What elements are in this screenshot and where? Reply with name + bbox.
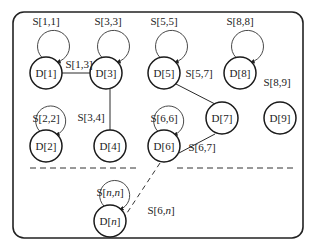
edge-label-s89: S[8,9]	[263, 76, 290, 88]
node-label-dn: D[n]	[100, 215, 121, 227]
node-label-d6: D[6]	[154, 140, 175, 152]
node-label-d2: D[2]	[36, 140, 57, 152]
node-label-d8: D[8]	[230, 67, 251, 79]
loop-label-s55: S[5,5]	[150, 15, 177, 27]
edge-label-s57: S[5,7]	[185, 67, 212, 79]
node-label-d1: D[1]	[36, 67, 57, 79]
loop-label-snn-suffix: ]	[120, 186, 124, 198]
edge-label-s6n-prefix: S[6,	[147, 204, 165, 216]
node-label-d4: D[4]	[100, 140, 121, 152]
node-label-d5: D[5]	[154, 67, 175, 79]
loop-label-s88: S[8,8]	[226, 15, 253, 27]
node-label-dn-prefix: D[	[100, 215, 112, 227]
loop-label-s66: S[6,6]	[150, 112, 177, 124]
edge-label-s34: S[3,4]	[77, 111, 104, 123]
loop-label-snn-var: n,n	[106, 186, 120, 198]
loop-label-s22: S[2,2]	[32, 112, 59, 124]
loop-label-snn-prefix: S[	[96, 186, 106, 198]
edge-label-s67: S[6,7]	[188, 141, 215, 153]
loop-label-s11: S[1,1]	[32, 15, 59, 27]
node-label-dn-suffix: ]	[117, 215, 121, 227]
node-label-d3: D[3]	[96, 67, 117, 79]
edge-label-s6n: S[6,n]	[147, 204, 174, 216]
node-label-d7: D[7]	[212, 112, 233, 124]
state-diagram: D[1] D[3] D[5] D[8] D[2] D[4] D[6] D[7] …	[0, 0, 311, 249]
loop-label-snn: S[n,n]	[96, 186, 123, 198]
node-label-d9: D[9]	[270, 112, 291, 124]
edge-label-s6n-suffix: ]	[171, 204, 175, 216]
loop-label-s33: S[3,3]	[94, 15, 121, 27]
edge-label-s13: S[1,3]	[65, 58, 92, 70]
